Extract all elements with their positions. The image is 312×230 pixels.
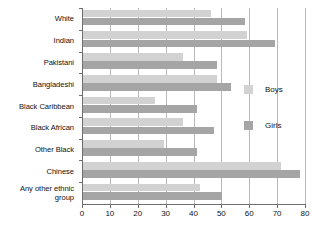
x-tick-mark: [221, 204, 222, 208]
bar-girls: [83, 105, 197, 113]
x-tick-mark: [166, 204, 167, 208]
x-tick-label: 10: [97, 209, 123, 218]
category-label: Any other ethnic group: [0, 184, 74, 202]
category-label: Pakistani: [0, 58, 74, 67]
x-tick-label: 50: [208, 209, 234, 218]
y-tick-mark: [79, 52, 83, 53]
x-tick-label: 40: [181, 209, 207, 218]
legend-label: Girls: [265, 121, 281, 130]
bar-chart: WhiteIndianPakistaniBangladeshiBlack Car…: [0, 0, 312, 230]
bar-boys: [83, 75, 217, 83]
bar-girls: [83, 40, 275, 48]
legend-item-girls: Girls: [244, 120, 281, 131]
bar-boys: [83, 53, 183, 61]
x-tick-label: 0: [69, 209, 95, 218]
bar-boys: [83, 184, 200, 192]
x-tick-mark: [82, 204, 83, 208]
legend-label: Boys: [265, 85, 283, 94]
y-tick-mark: [79, 73, 83, 74]
x-tick-label: 30: [153, 209, 179, 218]
bar-girls: [83, 148, 197, 156]
category-label: Black African: [0, 123, 74, 132]
category-label: Indian: [0, 36, 74, 45]
bar-girls: [83, 83, 231, 91]
bar-girls: [83, 127, 214, 135]
category-axis: WhiteIndianPakistaniBangladeshiBlack Car…: [0, 8, 78, 204]
plot-area: 01020304050607080: [82, 8, 305, 204]
legend-item-boys: Boys: [244, 84, 283, 95]
y-tick-mark: [79, 95, 83, 96]
x-tick-mark: [305, 204, 306, 208]
legend-swatch-boys: [244, 85, 253, 94]
x-tick-mark: [110, 204, 111, 208]
x-tick-label: 20: [125, 209, 151, 218]
x-tick-label: 70: [264, 209, 290, 218]
x-tick-mark: [249, 204, 250, 208]
y-tick-mark: [79, 182, 83, 183]
y-tick-mark: [79, 117, 83, 118]
bar-boys: [83, 97, 155, 105]
legend-swatch-girls: [244, 121, 253, 130]
gridline: [305, 8, 306, 204]
bar-boys: [83, 118, 183, 126]
x-tick-mark: [138, 204, 139, 208]
y-tick-mark: [79, 139, 83, 140]
bar-girls: [83, 18, 245, 26]
bar-boys: [83, 162, 281, 170]
bar-boys: [83, 140, 164, 148]
bar-boys: [83, 10, 211, 18]
category-label: White: [0, 14, 74, 23]
category-label: Black Caribbean: [0, 102, 74, 111]
x-tick-label: 60: [236, 209, 262, 218]
y-tick-mark: [79, 160, 83, 161]
x-tick-mark: [194, 204, 195, 208]
y-tick-mark: [79, 8, 83, 9]
category-label: Bangladeshi: [0, 80, 74, 89]
bar-girls: [83, 170, 300, 178]
bar-boys: [83, 31, 247, 39]
x-tick-mark: [277, 204, 278, 208]
y-tick-mark: [79, 30, 83, 31]
category-label: Other Black: [0, 145, 74, 154]
x-tick-label: 80: [292, 209, 312, 218]
category-label: Chinese: [0, 167, 74, 176]
bar-girls: [83, 192, 222, 200]
bar-girls: [83, 61, 217, 69]
